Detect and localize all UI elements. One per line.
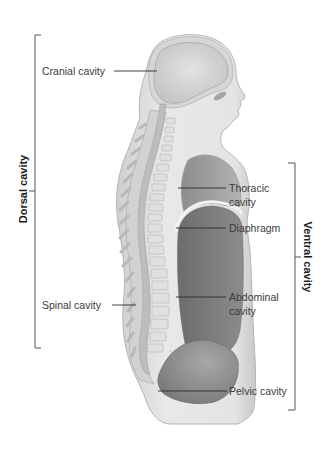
thoracic-cavity-label-line1: Thoracic [229, 182, 269, 194]
spinal-cavity-label: Spinal cavity [42, 299, 101, 311]
pelvic-cavity-label: Pelvic cavity [229, 385, 287, 397]
dorsal-cavity-label: Dorsal cavity [17, 144, 29, 234]
cranial-cavity-label: Cranial cavity [42, 65, 105, 77]
ventral-bracket [288, 163, 295, 410]
dorsal-bracket [35, 35, 41, 348]
diaphragm-label: Diaphragm [229, 222, 280, 234]
ventral-cavity-label: Ventral cavity [302, 212, 314, 302]
thoracic-cavity-label-line2: cavity [229, 196, 256, 208]
abdominal-cavity-label-line1: Abdominal [229, 291, 279, 303]
abdominal-cavity-label-line2: cavity [229, 305, 256, 317]
body-cavities-figure: Cranial cavity Thoracic cavity Diaphragm… [0, 0, 324, 471]
